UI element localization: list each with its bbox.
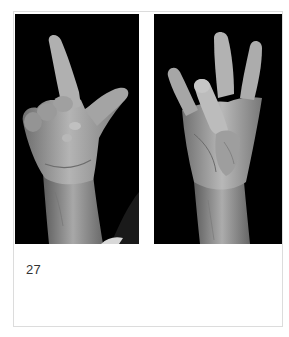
hand-photo-left — [15, 14, 139, 244]
hand-gesture-left-image — [15, 14, 139, 244]
hand-photo-right — [154, 14, 282, 244]
hand-gesture-right-image — [154, 14, 282, 244]
figure-caption: 27 — [26, 262, 41, 277]
figure-card: 27 — [13, 11, 283, 327]
